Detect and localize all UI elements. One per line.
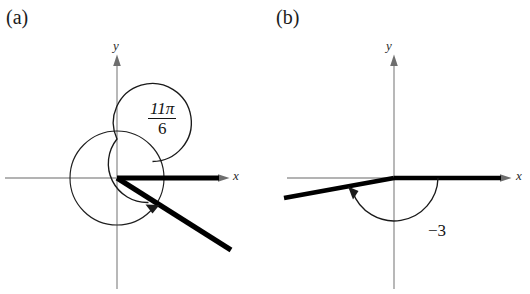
panel-b-y-axis-label: y	[386, 39, 392, 52]
angle-diagram-figure	[0, 0, 530, 294]
panel-a-angle-label: 11π 6	[148, 100, 176, 137]
panel-b-angle-label: −3	[428, 222, 446, 239]
panel-b-label: (b)	[276, 7, 299, 27]
panel-a-x-axis-arrowhead	[218, 174, 230, 182]
panel-a-arc-arrowhead	[146, 205, 160, 214]
panel-a-label: (a)	[6, 7, 28, 27]
panel-b-x-axis-arrowhead	[500, 174, 512, 182]
panel-b-x-axis-label: x	[516, 169, 522, 182]
panel-b	[284, 55, 512, 290]
panel-a	[5, 55, 231, 290]
panel-b-terminal-side-ray	[284, 178, 394, 198]
panel-a-angle-numerator: 11π	[148, 100, 176, 119]
panel-b-y-axis-arrowhead	[390, 55, 398, 67]
panel-a-angle-denominator: 6	[148, 119, 176, 137]
panel-a-y-axis-arrowhead	[113, 55, 121, 67]
panel-a-y-axis-label: y	[113, 39, 119, 52]
panel-a-terminal-side-ray	[117, 178, 231, 250]
panel-b-arc-arrowhead	[348, 187, 359, 200]
panel-a-x-axis-label: x	[233, 169, 239, 182]
